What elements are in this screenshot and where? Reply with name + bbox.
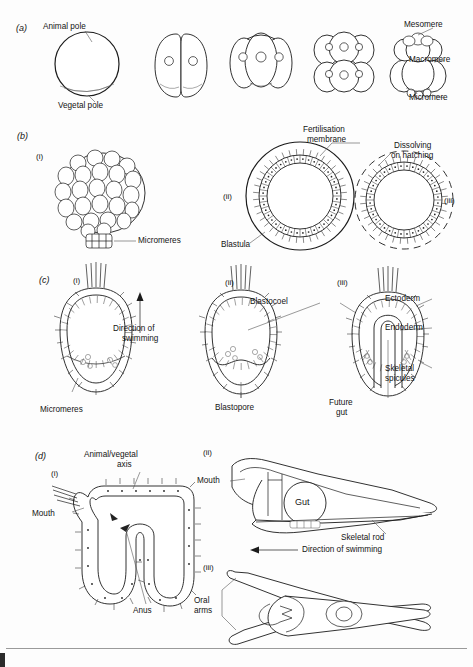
label-mouth-di: Mouth [32,509,55,519]
footer-bar [0,653,5,667]
pluteus-ventral [227,571,431,645]
label-macromere: Macromere [409,55,450,65]
label-blastula: Blastula [221,240,250,250]
label-direction-of-swimming-d: Direction of swimming [302,545,382,555]
label-future-gut-line2: gut [336,408,347,418]
label-skeletal-spicules-line2: spicules [385,374,415,384]
leader-skeletal-spicules [420,362,432,368]
label-dissolving-line1: Dissolving [394,141,431,151]
embryo-16-cell [390,33,446,99]
label-gut: Gut [295,498,310,508]
panel-label-b: (b) [17,131,28,141]
subpanel-d-i: (i) [51,469,58,478]
label-animal-vegetal-axis-line2: axis [117,460,132,470]
label-ectoderm: Ectoderm [385,294,420,304]
subpanel-b-iii: (iii) [444,196,455,205]
panel-label-d: (d) [35,451,46,461]
label-direction-line2: swimming [122,334,158,344]
label-vegetal-pole: Vegetal pole [58,101,103,111]
swimming-arrow-d [250,547,298,554]
label-skeletal-rod: Skeletal rod [341,533,384,543]
label-mouth-dii: Mouth [197,476,220,486]
embryo-2-cell [155,34,207,97]
label-animal-vegetal-axis-line1: Animal/vegetal [84,450,138,460]
label-micromere: Micromere [409,93,448,103]
subpanel-b-ii: (ii) [223,192,232,201]
subpanel-c-ii: (ii) [225,278,234,287]
embryo-8-cell [314,32,374,92]
label-future-gut-line1: Future [329,398,353,408]
subpanel-d-ii: (ii) [203,448,212,457]
leader-oral-arms [222,578,236,630]
subpanel-b-i: (i) [36,152,43,161]
label-fertilisation-membrane-line1: Fertilisation [303,125,345,135]
label-micromeres-c: Micromeres [40,405,83,415]
label-oral-arms-line2: arms [194,606,212,616]
label-mesomere: Mesomere [404,20,443,30]
subpanel-d-iii: (iii) [203,563,214,572]
panel-label-a: (a) [16,23,27,33]
label-skeletal-spicules-line1: Skeletal [385,364,414,374]
figure-sea-urchin-development: (a) (b) (c) (d) (i) (ii) (iii) (i) (ii) … [0,0,473,667]
label-fertilisation-membrane-line2: membrane [307,135,346,145]
label-dissolving-line2: on hatching [391,151,433,161]
leader-blastula [250,232,265,243]
label-animal-pole: Animal pole [43,22,86,32]
label-direction-line1: Direction of [113,324,154,334]
subpanel-c-iii: (iii) [337,278,348,287]
embryo-1-cell [55,32,119,96]
label-blastopore: Blastopore [215,403,254,413]
label-micromeres-b: Micromeres [138,236,181,246]
panel-label-c: (c) [39,275,50,285]
gastrula-stage-ii [199,264,282,398]
larva-section-di [52,478,201,612]
morula [55,150,145,248]
label-anus: Anus [133,606,152,616]
footer-rule [6,648,467,649]
subpanel-c-i: (i) [73,276,80,285]
label-endoderm: Endoderm [385,323,423,333]
label-oral-arms-line1: Oral [194,596,209,606]
embryo-4-cell [230,33,292,88]
pluteus-lateral [232,459,437,533]
label-blastocoel: Blastocoel [250,297,288,307]
